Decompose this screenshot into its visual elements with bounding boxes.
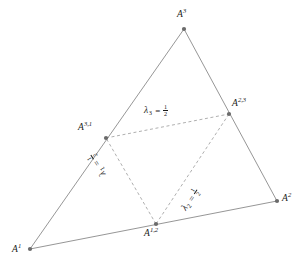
vertex-label-A3: A3 [177, 10, 186, 20]
vertex-label-A3-sup: 3 [183, 7, 186, 14]
vertex-label-A23-sup: 2,3 [238, 96, 246, 103]
vertex-label-A12: A1,2 [144, 229, 158, 239]
vertex-label-A1-sup: 1 [18, 242, 21, 249]
vertex-dot-A31 [104, 136, 108, 140]
inner-medial-triangle [106, 114, 229, 224]
lambda3-denominator: 2 [163, 110, 168, 118]
vertex-label-A1: A1 [12, 245, 21, 255]
vertex-dot-A23 [227, 112, 231, 116]
lambda3-equals: = [155, 107, 160, 116]
lambda3-subscript: 3 [149, 110, 152, 116]
outer-triangle [30, 29, 277, 249]
vertex-dot-A1 [28, 247, 32, 251]
vertex-dot-A3 [182, 27, 186, 31]
geometry-figure: A1 A2 A3 A1,2 A2,3 A3,1 λ3 = 1 2 λ1 = 1 … [0, 0, 305, 270]
vertex-dots [28, 27, 279, 251]
lambda3-symbol: λ [144, 106, 148, 116]
vertex-label-A12-sup: 1,2 [150, 226, 158, 233]
vertex-label-A2-sup: 2 [288, 191, 291, 198]
lambda1-equals: = [91, 159, 101, 168]
vertex-label-A23: A2,3 [232, 99, 246, 109]
lambda3-fraction: 1 2 [163, 104, 168, 118]
vertex-label-A31-sup: 3,1 [84, 120, 92, 127]
vertex-dot-A2 [275, 199, 279, 203]
edge-A12-A31 [106, 138, 156, 224]
lambda3-label: λ3 = 1 2 [144, 104, 168, 118]
vertex-label-A2: A2 [282, 194, 291, 204]
vertex-label-A31: A3,1 [78, 123, 92, 133]
